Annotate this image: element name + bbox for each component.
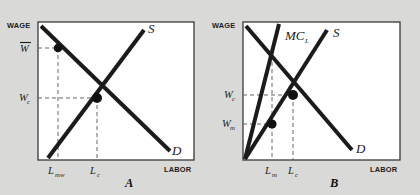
panel-a-xtick-lc-sub: c <box>97 171 100 178</box>
panel-a-supply-label: S <box>148 21 155 36</box>
panel-b-ytick-competitive-wage: W c <box>224 89 235 102</box>
panel-b-xtick-lc-base: L <box>287 165 294 176</box>
panel-b-y-axis-title: WAGE <box>212 21 235 30</box>
panel-a: S D WAGE LABOR W W c L mw L c <box>7 21 194 190</box>
panel-a-xtick-labor-minimum-wage: L mw <box>47 165 65 178</box>
panel-b-marginal-cost-label: MC <box>284 28 305 43</box>
panel-a-ytick-minimum-wage: W <box>20 43 31 55</box>
panel-a-letter: A <box>124 176 133 190</box>
panel-a-ytick-competitive-wage: W c <box>19 92 30 105</box>
panel-b-ytick-monopsony-wage: W m <box>222 118 235 131</box>
panel-a-ytick-minimum-wage-label: W <box>20 43 30 54</box>
panel-b-competitive-equilibrium-point <box>288 90 298 100</box>
panel-b-xtick-labor-competitive: L c <box>287 165 298 178</box>
figure-canvas: S D WAGE LABOR W W c L mw L c <box>0 0 420 195</box>
panel-b-x-axis-title: LABOR <box>370 165 398 174</box>
panel-a-xtick-labor-competitive: L c <box>89 165 100 178</box>
panel-a-competitive-equilibrium-point <box>92 93 102 103</box>
panel-a-xtick-lc-base: L <box>89 165 96 176</box>
panel-b-ytick-wm-sub: m <box>230 124 235 131</box>
panel-b-plot-area <box>243 22 400 160</box>
panel-b-supply-label: S <box>333 25 340 40</box>
economics-figure-labor-market: S D WAGE LABOR W W c L mw L c <box>0 0 420 195</box>
panel-b-xtick-lm-sub: m <box>272 171 277 178</box>
panel-a-y-axis-title: WAGE <box>7 21 30 30</box>
panel-a-ytick-competitive-wage-sub: c <box>27 98 30 105</box>
panel-a-xtick-lmw-sub: mw <box>55 171 65 178</box>
panel-a-demand-label: D <box>171 143 182 158</box>
panel-b-monopsony-outcome-point <box>267 119 276 128</box>
panel-b-demand-label: D <box>355 141 366 156</box>
panel-b-ytick-wc-sub: c <box>232 95 235 102</box>
panel-a-xtick-lmw-base: L <box>47 165 54 176</box>
panel-b-marginal-cost-sub: L <box>304 37 309 44</box>
panel-b-letter: B <box>329 176 338 190</box>
panel-a-x-axis-title: LABOR <box>164 165 192 174</box>
panel-b-xtick-labor-monopsony: L m <box>264 165 277 178</box>
panel-b-xtick-lm-base: L <box>264 165 271 176</box>
panel-b: MC L S D WAGE LABOR W c W m L m <box>212 21 400 190</box>
panel-a-minimum-wage-point <box>54 44 63 53</box>
panel-b-xtick-lc-sub: c <box>295 171 298 178</box>
